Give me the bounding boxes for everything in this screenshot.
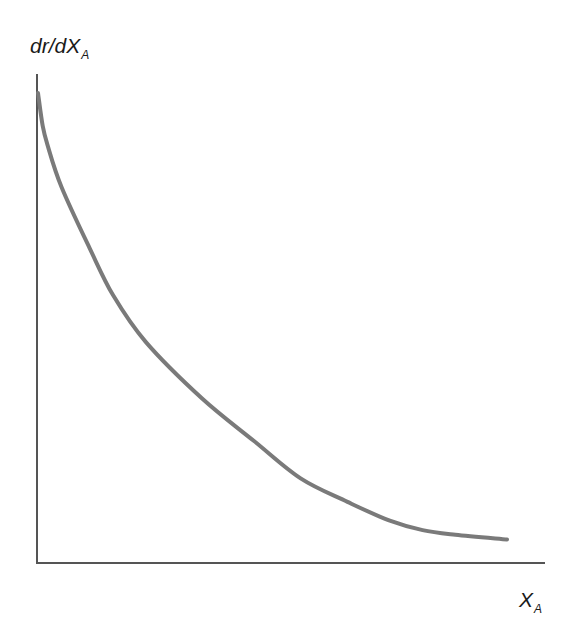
x-axis-label: XA [519,588,541,612]
x-axis-label-subscript: A [534,602,542,616]
chart-canvas [0,0,570,642]
data-curve [38,93,507,540]
x-axis-label-main: X [519,588,533,611]
